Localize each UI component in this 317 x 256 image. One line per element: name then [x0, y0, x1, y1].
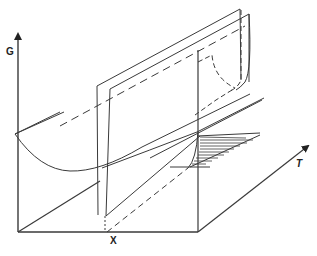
t-axis-label: T: [296, 158, 302, 169]
plane-2-curve: [236, 14, 250, 90]
back-dashed-curve: [198, 55, 235, 88]
t-axis: [198, 146, 308, 232]
bowl-curve: [15, 94, 250, 171]
diagram-canvas: G X T: [0, 0, 317, 256]
lower-dashed: [107, 168, 188, 232]
back-dashed-down: [195, 90, 232, 115]
origin-diagonal: [18, 181, 100, 232]
free-energy-surface-diagram: [0, 0, 317, 256]
slope-curve: [102, 98, 264, 168]
bowl-top-left-edge: [15, 112, 64, 134]
g-axis-label: G: [6, 46, 14, 57]
plane-front-1: [97, 9, 241, 215]
plane-front-2: [106, 14, 249, 216]
slope-line-1: [106, 136, 200, 216]
dashed-ridge: [60, 26, 245, 126]
x-axis-label: X: [110, 235, 117, 246]
